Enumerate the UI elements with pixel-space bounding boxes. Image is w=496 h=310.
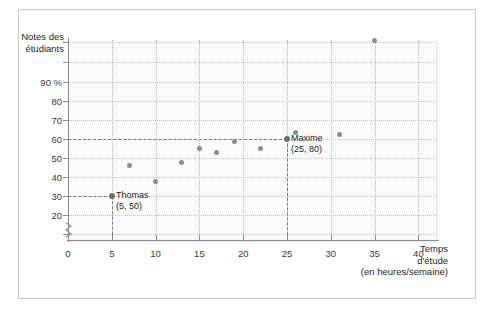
y-tick-label-40: 40 [0, 172, 62, 183]
annotation-thomas: Thomas (5, 50) [116, 190, 149, 212]
gridline-horizontal [68, 215, 436, 216]
x-tick [331, 235, 332, 241]
plot-area: Thomas (5, 50) Maxime (25, 80) [68, 40, 436, 240]
y-tick-label-20: 20 [0, 210, 62, 221]
annotation-thomas-name: Thomas [116, 190, 149, 200]
data-point[interactable] [372, 38, 377, 43]
x-axis-title-line1: Temps [420, 243, 448, 254]
x-tick-label-20: 20 [238, 248, 249, 259]
y-tick-label-80: 80 [0, 96, 62, 107]
data-point[interactable] [258, 146, 263, 151]
gridline-vertical [243, 40, 244, 240]
gridline-vertical [199, 40, 200, 240]
x-axis [67, 240, 439, 241]
y-tick [63, 158, 69, 159]
y-tick [63, 82, 69, 83]
x-tick-label-15: 15 [194, 248, 205, 259]
y-tick [63, 177, 69, 178]
gridline-vertical [375, 40, 376, 240]
data-point-thomas[interactable] [109, 193, 115, 199]
data-point[interactable] [197, 146, 202, 151]
annotation-maxime-name: Maxime [291, 133, 323, 143]
x-tick [287, 235, 288, 241]
y-axis-title-line2: étudiants [25, 43, 64, 54]
y-tick-label-30: 30 [0, 191, 62, 202]
x-tick [375, 235, 376, 241]
data-point[interactable] [337, 132, 342, 137]
gridline-vertical [418, 40, 419, 240]
x-tick [243, 235, 244, 241]
x-tick [199, 235, 200, 241]
annotation-maxime-coords: (25, 80) [291, 144, 322, 154]
x-axis-title: Temps d'étude (en heures/semaine) [300, 243, 448, 278]
x-tick [418, 235, 419, 241]
x-tick [112, 235, 113, 241]
annotation-maxime: Maxime (25, 80) [291, 133, 323, 155]
gridline-vertical [156, 40, 157, 240]
x-axis-title-line2: d'étude [417, 255, 448, 266]
gridline-vertical [331, 40, 332, 240]
data-point[interactable] [179, 160, 184, 165]
guide-line-maxime-horizontal [68, 139, 287, 140]
y-tick [63, 215, 69, 216]
data-point[interactable] [232, 139, 237, 144]
guide-line-thomas-vertical [112, 196, 113, 240]
gridline-horizontal [68, 82, 436, 83]
y-tick [63, 101, 69, 102]
gridline-horizontal [68, 42, 436, 43]
data-point[interactable] [153, 179, 158, 184]
gridline-horizontal [68, 62, 436, 63]
y-tick [63, 196, 69, 197]
scatter-chart: Thomas (5, 50) Maxime (25, 80) 90 % 80 7… [0, 0, 496, 310]
gridline-horizontal [68, 101, 436, 102]
y-tick-label-50: 50 [0, 153, 62, 164]
x-tick-label-5: 5 [109, 248, 114, 259]
gridline-horizontal [68, 120, 436, 121]
y-axis [68, 38, 69, 242]
data-point[interactable] [127, 163, 132, 168]
y-axis-title: Notes des étudiants [10, 31, 64, 54]
gridline-horizontal [68, 177, 436, 178]
y-tick [63, 62, 69, 63]
gridline-horizontal [68, 158, 436, 159]
guide-line-thomas-horizontal [68, 196, 112, 197]
x-tick [156, 235, 157, 241]
guide-line-maxime-vertical [287, 139, 288, 240]
y-tick-label-70: 70 [0, 115, 62, 126]
y-tick [63, 139, 69, 140]
y-tick [63, 120, 69, 121]
annotation-thomas-coords: (5, 50) [116, 201, 142, 211]
y-tick-label-90: 90 % [0, 77, 62, 88]
x-tick [68, 235, 69, 241]
data-point-maxime[interactable] [284, 136, 290, 142]
y-tick-label-60: 60 [0, 134, 62, 145]
y-axis-title-line1: Notes des [21, 31, 64, 42]
x-axis-title-unit: (en heures/semaine) [300, 266, 448, 278]
gridline-horizontal [68, 234, 436, 235]
x-tick-label-10: 10 [150, 248, 161, 259]
data-point[interactable] [214, 150, 219, 155]
x-tick-label-25: 25 [282, 248, 293, 259]
x-tick-label-0: 0 [65, 248, 70, 259]
